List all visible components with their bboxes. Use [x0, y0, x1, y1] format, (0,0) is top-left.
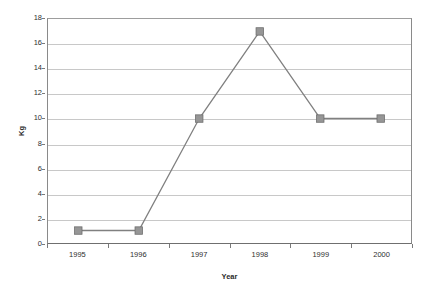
x-axis-tick-mark [412, 244, 413, 248]
y-axis-tick-label: 0 [20, 240, 42, 248]
series-line [78, 31, 381, 230]
x-axis-tick-mark [290, 244, 291, 248]
y-axis-tick-label: 6 [20, 165, 42, 173]
y-axis-tick-mark [42, 169, 45, 170]
data-point-marker [377, 115, 384, 122]
data-point-marker [317, 115, 324, 122]
x-axis-tick-mark [108, 244, 109, 248]
data-point-marker [256, 28, 263, 35]
y-axis-tick-label: 4 [20, 190, 42, 198]
x-axis-tick-label: 1998 [235, 250, 285, 260]
data-point-marker [135, 227, 142, 234]
y-axis-tick-label-group: 024681012141618 [20, 18, 42, 244]
x-axis-tick-label: 1996 [113, 250, 163, 260]
x-axis-tick-mark [351, 244, 352, 248]
y-axis-tick-mark [42, 144, 45, 145]
y-axis-tick-label: 8 [20, 140, 42, 148]
x-axis-tick-label: 1997 [174, 250, 224, 260]
x-axis-tick-mark [169, 244, 170, 248]
x-axis-tick-label-group: 199519961997199819992000 [47, 250, 412, 262]
x-axis-tick-mark [47, 244, 48, 248]
x-axis-title: Year [47, 272, 412, 281]
x-axis-tick-mark [230, 244, 231, 248]
y-axis-tick-mark [42, 118, 45, 119]
y-axis-tick-label: 14 [20, 64, 42, 72]
x-axis-tick-label: 1999 [296, 250, 346, 260]
data-point-marker [75, 227, 82, 234]
plot-area [47, 18, 412, 244]
data-series-kg [48, 19, 411, 243]
y-axis-tick-label: 16 [20, 39, 42, 47]
y-axis-tick-mark [42, 219, 45, 220]
line-chart-figure: Kg 024681012141618 199519961997199819992… [0, 0, 429, 302]
y-axis-tick-mark [42, 43, 45, 44]
y-axis-tick-label: 10 [20, 114, 42, 122]
y-axis-tick-label: 12 [20, 89, 42, 97]
x-axis-tick-mark-group [47, 244, 412, 248]
y-axis-tick-label: 2 [20, 215, 42, 223]
x-axis-tick-label: 1995 [52, 250, 102, 260]
x-axis-tick-label: 2000 [357, 250, 407, 260]
y-axis-tick-label: 18 [20, 14, 42, 22]
y-axis-tick-mark [42, 68, 45, 69]
y-axis-tick-mark [42, 244, 45, 245]
y-axis-tick-mark [42, 194, 45, 195]
y-axis-tick-mark [42, 18, 45, 19]
data-point-marker [195, 115, 202, 122]
y-axis-tick-mark [42, 93, 45, 94]
